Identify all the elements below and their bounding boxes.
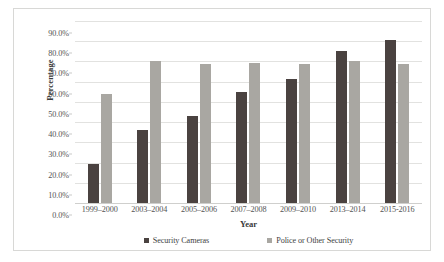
x-axis-tick-label: 2005–2006 [174,205,224,214]
bar[interactable] [286,79,297,203]
y-axis-tick-mark [69,93,72,94]
chart-figure: Percentage 0.0%10.0%20.0%30.0%40.0%50.0%… [13,8,431,251]
bar[interactable] [249,63,260,203]
bar[interactable] [336,51,347,203]
y-axis-tick-mark [69,174,72,175]
x-axis-tick-label: 2003–2004 [125,205,175,214]
bar[interactable] [349,61,360,203]
bar[interactable] [137,130,148,203]
bar[interactable] [398,64,409,203]
y-axis-tick-mark [69,73,72,74]
y-axis-tick-mark [69,154,72,155]
y-axis-tick-mark [69,113,72,114]
y-axis-tick-label: 30.0% [48,150,69,159]
bar[interactable] [299,64,310,203]
bar[interactable] [385,40,396,203]
bar[interactable] [187,116,198,203]
legend-swatch-icon [267,238,272,243]
bar[interactable] [200,64,211,203]
y-axis-tick-mark [69,134,72,135]
y-axis-tick-mark [69,194,72,195]
x-axis-tick-label: 2015-2016 [372,205,422,214]
bar-group [125,21,175,203]
y-axis-tick-label: 80.0% [48,49,69,58]
legend-label: Security Cameras [153,236,209,245]
bar-group [273,21,323,203]
y-axis-tick-label: 70.0% [48,69,69,78]
y-axis-tick-label: 60.0% [48,89,69,98]
x-axis-tick-label: 2013–2014 [323,205,373,214]
y-axis-tick-labels: 0.0%10.0%20.0%30.0%40.0%50.0%60.0%70.0%8… [27,21,72,203]
legend-swatch-icon [144,238,149,243]
y-axis-tick-label: 40.0% [48,130,69,139]
y-axis-tick-label: 90.0% [48,29,69,38]
gridline [75,203,422,204]
bar[interactable] [150,61,161,203]
bar-group [174,21,224,203]
y-axis-tick-label: 50.0% [48,109,69,118]
bar-group [224,21,274,203]
bar-group [323,21,373,203]
x-axis-title: Year [75,219,422,229]
bar-group [75,21,125,203]
chart-legend: Security CamerasPolice or Other Security [75,236,422,245]
y-axis-tick-label: 0.0% [52,211,69,220]
x-axis-tick-label: 2009–2010 [273,205,323,214]
y-axis-tick-mark [69,33,72,34]
bar[interactable] [236,92,247,203]
bar[interactable] [101,94,112,203]
y-axis-tick-label: 10.0% [48,190,69,199]
bar[interactable] [88,164,99,203]
x-axis-tick-label: 1999–2000 [75,205,125,214]
y-axis-tick-mark [69,53,72,54]
legend-label: Police or Other Security [276,236,353,245]
bar-group [372,21,422,203]
x-axis-tick-label: 2007–2008 [224,205,274,214]
legend-entry[interactable]: Police or Other Security [267,236,353,245]
y-axis-tick-mark [69,215,72,216]
legend-entry[interactable]: Security Cameras [144,236,209,245]
plot-area [75,21,422,203]
y-axis-tick-label: 20.0% [48,170,69,179]
